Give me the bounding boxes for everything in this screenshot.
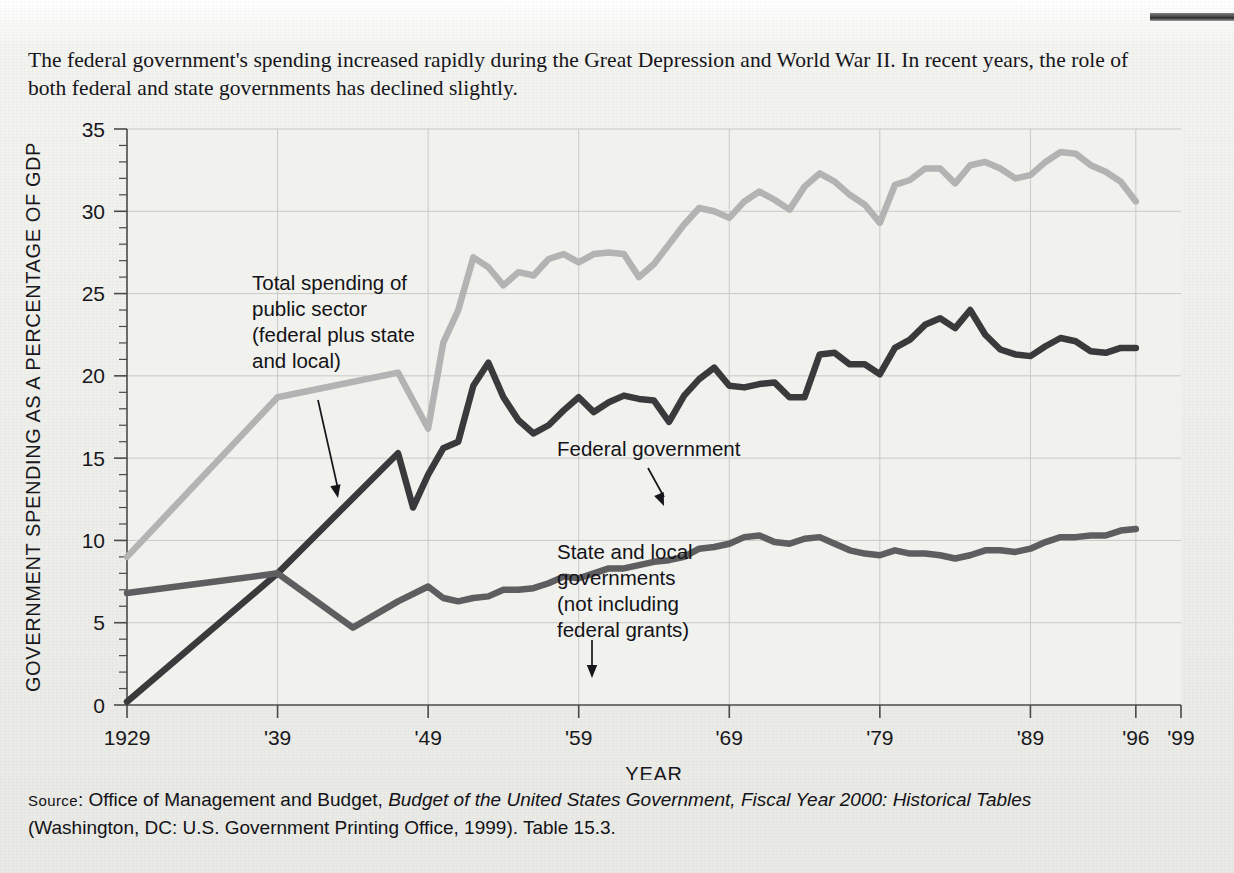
y-axis-tick-label: 20 bbox=[82, 364, 105, 387]
x-axis-tick-label: '96 bbox=[1122, 726, 1149, 749]
annotation-line: (not including bbox=[557, 592, 679, 615]
x-axis-tick-label: '79 bbox=[866, 726, 893, 749]
x-axis-tick-label: '49 bbox=[414, 726, 441, 749]
annotation-line: State and local bbox=[557, 540, 693, 563]
y-axis-tick-label: 0 bbox=[93, 694, 105, 717]
annotation-line: Federal government bbox=[557, 437, 741, 460]
x-axis-tick-label: 1929 bbox=[104, 726, 151, 749]
y-axis-tick-label: 35 bbox=[82, 118, 105, 141]
y-axis-title: GOVERNMENT SPENDING AS A PERCENTAGE OF G… bbox=[22, 142, 44, 692]
y-axis-tick-label: 10 bbox=[82, 529, 105, 552]
source-label: Source bbox=[28, 792, 78, 809]
annotation-line: federal grants) bbox=[557, 618, 689, 641]
annotation-line: and local) bbox=[252, 349, 341, 372]
x-axis-title: YEAR bbox=[625, 763, 682, 780]
x-axis-tick-label: '99 bbox=[1167, 726, 1194, 749]
annotation-line: (federal plus state bbox=[252, 323, 415, 346]
line-chart: 051015202530351929'39'49'59'69'79'89'96'… bbox=[0, 112, 1234, 780]
y-axis-tick-label: 15 bbox=[82, 447, 105, 470]
x-axis-tick-label: '39 bbox=[264, 726, 291, 749]
x-axis-tick-label: '89 bbox=[1017, 726, 1044, 749]
source-title-italic: Budget of the United States Government, … bbox=[388, 789, 1031, 810]
chart-container: 051015202530351929'39'49'59'69'79'89'96'… bbox=[0, 112, 1234, 780]
annotation-line: governments bbox=[557, 566, 676, 589]
x-axis-tick-label: '59 bbox=[565, 726, 592, 749]
annotation-line: public sector bbox=[252, 297, 367, 320]
y-axis-tick-label: 5 bbox=[93, 611, 105, 634]
x-axis-tick-label: '69 bbox=[716, 726, 743, 749]
figure-caption: The federal government's spending increa… bbox=[28, 46, 1158, 102]
source-text-b: (Washington, DC: U.S. Government Printin… bbox=[28, 817, 616, 838]
annotation-line: Total spending of bbox=[252, 271, 407, 294]
source-note: Source: Office of Management and Budget,… bbox=[28, 786, 1208, 841]
y-axis-tick-label: 25 bbox=[82, 282, 105, 305]
top-rule-decoration bbox=[1150, 13, 1234, 21]
source-text-a: : Office of Management and Budget, bbox=[78, 789, 388, 810]
figure-page: The federal government's spending increa… bbox=[0, 0, 1234, 873]
y-axis-tick-label: 30 bbox=[82, 200, 105, 223]
